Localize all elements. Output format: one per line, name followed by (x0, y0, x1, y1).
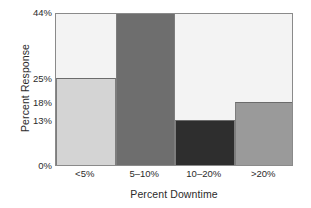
x-tick-label: 10–20% (174, 168, 234, 180)
x-tick-label: >20% (234, 168, 294, 180)
plot-area (55, 13, 293, 166)
bar (56, 78, 116, 165)
x-axis-title: Percent Downtime (55, 188, 293, 200)
y-tick-label: 44% (0, 8, 52, 18)
bar (235, 102, 294, 165)
bar-chart-figure: Percent Response 0%13%18%25%44% <5%5–10%… (0, 0, 311, 208)
bar (175, 120, 235, 165)
y-tick-label: 0% (0, 161, 52, 171)
x-tick-label: 5–10% (115, 168, 175, 180)
x-axis-tick-labels: <5%5–10%10–20%>20% (55, 168, 293, 182)
y-tick-label: 25% (0, 74, 52, 84)
y-axis-tick-labels: 0%13%18%25%44% (0, 0, 52, 208)
y-tick-label: 13% (0, 116, 52, 126)
x-tick-label: <5% (55, 168, 115, 180)
bar (116, 13, 176, 165)
y-tick-label: 18% (0, 98, 52, 108)
